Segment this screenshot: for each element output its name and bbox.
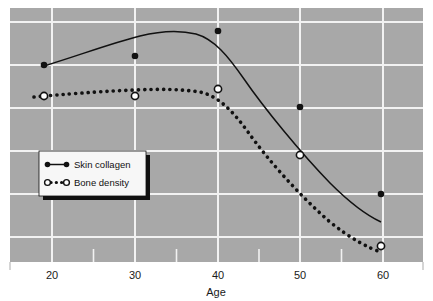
x-tick-label-60: 60 — [377, 269, 389, 281]
data-point-skin-collagen-30 — [132, 53, 139, 60]
x-tick-label-40: 40 — [212, 269, 224, 281]
chart-legend[interactable]: Skin collagen Bone density — [39, 151, 150, 200]
chart-container: Skin collagen Bone density 20 30 40 50 6… — [0, 0, 433, 301]
x-tick-label-20: 20 — [46, 269, 58, 281]
data-point-skin-collagen-40 — [215, 28, 222, 35]
legend-marker-skin-collagen-left — [45, 162, 51, 168]
x-tick-label-30: 30 — [129, 269, 141, 281]
legend-label-skin-collagen: Skin collagen — [74, 159, 131, 170]
legend-marker-skin-collagen-right — [64, 162, 70, 168]
data-point-bone-density-50 — [296, 151, 303, 158]
data-point-skin-collagen-20 — [41, 62, 48, 69]
data-point-skin-collagen-60 — [378, 191, 385, 198]
x-axis-title: Age — [206, 286, 226, 298]
data-point-bone-density-60 — [377, 242, 384, 249]
data-point-skin-collagen-50 — [297, 104, 304, 111]
data-point-bone-density-30 — [131, 92, 138, 99]
x-tick-label-50: 50 — [294, 269, 306, 281]
x-axis-tick-labels: 20 30 40 50 60 — [46, 269, 389, 281]
legend-label-bone-density: Bone density — [74, 177, 129, 188]
line-chart: Skin collagen Bone density 20 30 40 50 6… — [0, 0, 433, 301]
legend-marker-bone-density-right — [64, 180, 70, 186]
legend-marker-bone-density-left — [45, 180, 51, 186]
data-point-bone-density-20 — [40, 92, 47, 99]
data-point-bone-density-40 — [214, 85, 221, 92]
